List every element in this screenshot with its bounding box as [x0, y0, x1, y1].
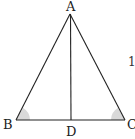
triangle-diagram: A B C D 1 — [0, 0, 135, 139]
label-a: A — [65, 0, 76, 14]
label-b: B — [3, 117, 13, 132]
cropped-text: 1 — [128, 55, 135, 69]
side-ac — [70, 14, 125, 120]
segment-ad — [71, 14, 72, 120]
label-c: C — [127, 117, 135, 132]
angle-mark-b — [16, 108, 30, 120]
angle-mark-c — [111, 108, 125, 120]
label-d: D — [66, 124, 76, 139]
side-ab — [16, 14, 70, 120]
